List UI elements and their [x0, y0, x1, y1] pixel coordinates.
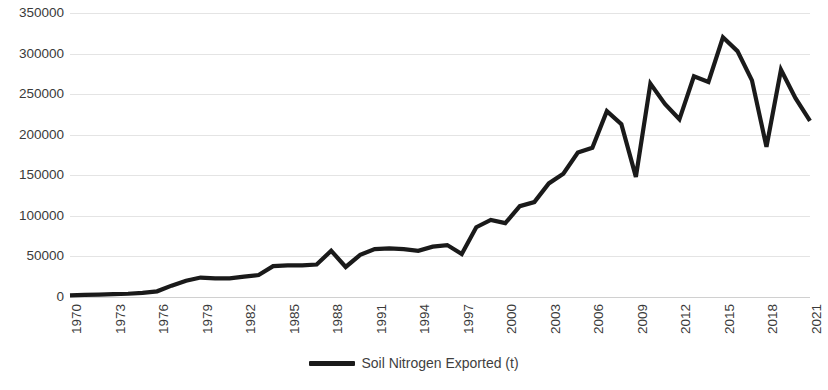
y-tick-label: 300000 [0, 47, 64, 61]
x-tick-label: 1985 [288, 304, 302, 334]
x-tick-label: 1982 [244, 304, 258, 334]
x-tick-label: 2018 [766, 304, 780, 334]
x-tick-label: 2015 [723, 304, 737, 334]
series-layer [70, 13, 810, 297]
y-tick-label: 200000 [0, 128, 64, 142]
x-tick-label: 1973 [114, 304, 128, 334]
x-tick-label: 1970 [70, 304, 84, 334]
x-tick-label: 2000 [505, 304, 519, 334]
y-tick-label: 0 [0, 290, 64, 304]
series-line-soil-nitrogen-exported [70, 37, 810, 295]
x-tick-label: 1979 [201, 304, 215, 334]
y-tick-label: 150000 [0, 169, 64, 183]
y-tick-label: 50000 [0, 250, 64, 264]
x-tick-label: 2012 [679, 304, 693, 334]
x-tick-label: 1976 [157, 304, 171, 334]
x-tick-label: 2006 [592, 304, 606, 334]
gridline [70, 297, 810, 298]
x-tick-label: 1997 [462, 304, 476, 334]
x-tick-label: 2009 [636, 304, 650, 334]
x-tick-label: 2021 [810, 304, 824, 334]
y-axis: 0500001000001500002000002500003000003500… [0, 0, 64, 310]
y-tick-label: 100000 [0, 209, 64, 223]
x-tick-label: 1988 [331, 304, 345, 334]
x-tick-label: 1991 [375, 304, 389, 334]
plot-area [70, 13, 810, 297]
line-chart: 0500001000001500002000002500003000003500… [0, 0, 828, 390]
legend-label: Soil Nitrogen Exported (t) [361, 356, 518, 370]
chart-legend: Soil Nitrogen Exported (t) [0, 356, 828, 370]
y-tick-label: 250000 [0, 87, 64, 101]
x-tick-label: 2003 [549, 304, 563, 334]
y-tick-label: 350000 [0, 6, 64, 20]
x-axis: 1970197319761979198219851988199119941997… [70, 300, 810, 356]
x-tick-label: 1994 [418, 304, 432, 334]
legend-swatch-icon [309, 361, 355, 366]
